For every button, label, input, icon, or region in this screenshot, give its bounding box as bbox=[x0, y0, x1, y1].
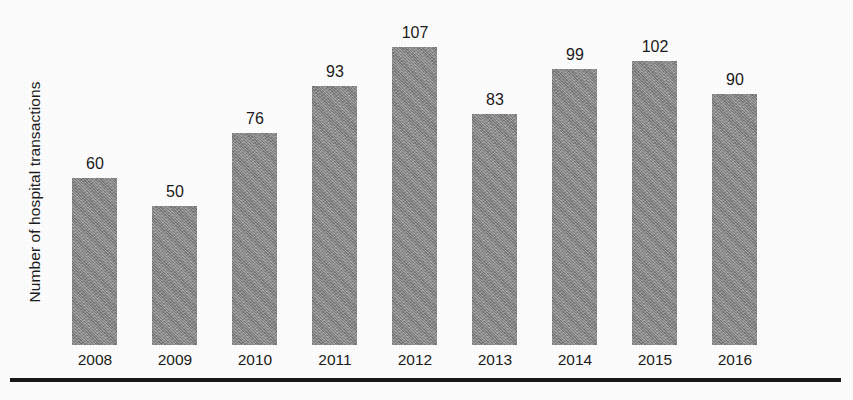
x-axis-tick-label: 2014 bbox=[535, 349, 615, 371]
bar[interactable] bbox=[632, 61, 677, 345]
bar-group: 50 bbox=[135, 0, 215, 345]
bar-group: 93 bbox=[295, 0, 375, 345]
bar-group: 90 bbox=[695, 0, 775, 345]
bar[interactable] bbox=[232, 133, 277, 345]
x-axis-tick-label: 2011 bbox=[295, 349, 375, 371]
bar-value-label: 102 bbox=[615, 39, 695, 55]
x-axis-tick-label: 2008 bbox=[55, 349, 135, 371]
bar[interactable] bbox=[392, 47, 437, 345]
plot-area: 60 50 76 93 107 83 99 102 bbox=[55, 0, 835, 345]
bar-chart-figure: Number of hospital transactions 60 50 76… bbox=[0, 0, 853, 400]
y-axis-title: Number of hospital transactions bbox=[22, 42, 48, 342]
bar-group: 83 bbox=[455, 0, 535, 345]
bar-group: 107 bbox=[375, 0, 455, 345]
bar[interactable] bbox=[472, 114, 517, 345]
bar-value-label: 90 bbox=[695, 72, 775, 88]
bar-value-label: 107 bbox=[375, 25, 455, 41]
x-axis-tick-labels: 2008 2009 2010 2011 2012 2013 2014 2015 … bbox=[55, 349, 835, 375]
bottom-horizontal-rule bbox=[10, 378, 841, 382]
x-axis-tick-label: 2013 bbox=[455, 349, 535, 371]
bar[interactable] bbox=[152, 206, 197, 345]
x-axis-tick-label: 2009 bbox=[135, 349, 215, 371]
bar-value-label: 83 bbox=[455, 92, 535, 108]
bar-group: 102 bbox=[615, 0, 695, 345]
x-axis-tick-label: 2016 bbox=[695, 349, 775, 371]
bar[interactable] bbox=[552, 69, 597, 345]
bar-value-label: 60 bbox=[55, 156, 135, 172]
bar[interactable] bbox=[712, 94, 757, 345]
bar-value-label: 99 bbox=[535, 47, 615, 63]
bar-value-label: 93 bbox=[295, 64, 375, 80]
x-axis-tick-label: 2012 bbox=[375, 349, 455, 371]
bar-group: 76 bbox=[215, 0, 295, 345]
bar-group: 60 bbox=[55, 0, 135, 345]
bar[interactable] bbox=[72, 178, 117, 345]
bar[interactable] bbox=[312, 86, 357, 345]
x-axis-tick-label: 2015 bbox=[615, 349, 695, 371]
bar-value-label: 50 bbox=[135, 184, 215, 200]
bar-group: 99 bbox=[535, 0, 615, 345]
bar-value-label: 76 bbox=[215, 111, 295, 127]
x-axis-tick-label: 2010 bbox=[215, 349, 295, 371]
